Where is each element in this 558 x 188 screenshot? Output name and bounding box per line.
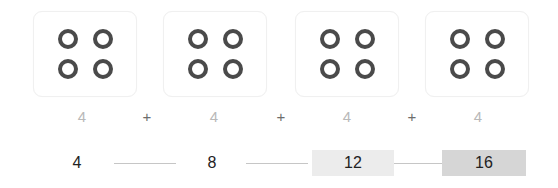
plus-operator: + (400, 106, 424, 128)
addend-label: 4 (67, 106, 97, 128)
plus-operator: + (269, 106, 293, 128)
addends-row: 4 + 4 + 4 + 4 (0, 106, 558, 132)
ring-icon (320, 59, 340, 79)
connector-line (114, 163, 176, 164)
group-card[interactable] (295, 11, 399, 97)
dot-grid (426, 12, 528, 96)
addend-label: 4 (332, 106, 362, 128)
ring-icon (320, 29, 340, 49)
dot-grid (296, 12, 398, 96)
ring-icon (450, 59, 470, 79)
ring-icon (355, 29, 375, 49)
running-total-chip[interactable]: 12 (312, 150, 394, 176)
plus-operator: + (135, 106, 159, 128)
ring-icon (93, 59, 113, 79)
group-card[interactable] (425, 11, 529, 97)
running-total-chip[interactable]: 8 (186, 150, 238, 176)
ring-icon (485, 59, 505, 79)
ring-icon (485, 29, 505, 49)
ring-icon (223, 59, 243, 79)
dot-grid (34, 12, 136, 96)
ring-icon (188, 29, 208, 49)
running-totals-row: 4 8 12 16 (0, 150, 558, 180)
group-card[interactable] (163, 11, 267, 97)
group-card[interactable] (33, 11, 137, 97)
ring-icon (188, 59, 208, 79)
running-total-chip[interactable]: 4 (55, 150, 99, 176)
ring-icon (58, 59, 78, 79)
ring-icon (450, 29, 470, 49)
ring-icon (58, 29, 78, 49)
connector-line (246, 163, 308, 164)
running-total-chip[interactable]: 16 (442, 150, 526, 176)
connector-line (394, 163, 444, 164)
ring-icon (223, 29, 243, 49)
ring-icon (93, 29, 113, 49)
skip-counting-diagram: 4 + 4 + 4 + 4 4 8 12 16 (0, 0, 558, 188)
addend-label: 4 (199, 106, 229, 128)
group-cards-row (0, 11, 558, 99)
ring-icon (355, 59, 375, 79)
addend-label: 4 (463, 106, 493, 128)
dot-grid (164, 12, 266, 96)
